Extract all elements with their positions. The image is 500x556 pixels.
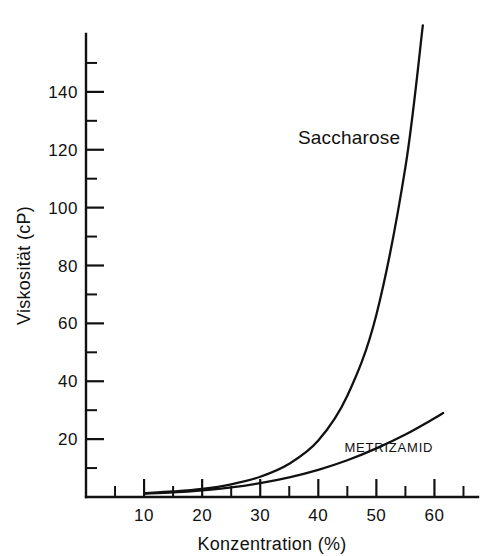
x-tick-label: 40	[308, 506, 328, 525]
y-tick-label: 100	[48, 199, 78, 218]
y-tick-label: 80	[58, 257, 78, 276]
y-axis-tick-labels: 20406080100120140	[48, 83, 78, 449]
x-tick-label: 30	[250, 506, 270, 525]
x-axis-title: Konzentration (%)	[197, 534, 346, 554]
y-tick-label: 60	[58, 314, 78, 333]
curve-saccharose	[144, 25, 423, 493]
x-tick-label: 50	[366, 506, 386, 525]
chart-canvas: 20406080100120140 102030405060 Saccharos…	[0, 0, 500, 556]
x-tick-label: 10	[134, 506, 154, 525]
y-axis-title: Viskosität (cP)	[14, 206, 34, 325]
x-tick-label: 60	[424, 506, 444, 525]
series-label-metrizamid: METRIZAMID	[344, 440, 433, 455]
y-tick-label: 120	[48, 141, 78, 160]
series-label-saccharose: Saccharose	[298, 127, 400, 148]
x-axis-tick-labels: 102030405060	[134, 506, 444, 525]
x-tick-label: 20	[192, 506, 212, 525]
y-tick-label: 40	[58, 372, 78, 391]
y-tick-label: 140	[48, 83, 78, 102]
data-series-curves	[144, 25, 443, 493]
y-tick-label: 20	[58, 430, 78, 449]
viscosity-concentration-chart: 20406080100120140 102030405060 Saccharos…	[0, 0, 500, 556]
y-axis-major-ticks	[86, 92, 104, 439]
